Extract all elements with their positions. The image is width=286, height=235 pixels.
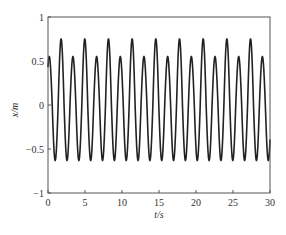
series-line bbox=[48, 39, 270, 160]
x-tick-label: 0 bbox=[46, 197, 51, 208]
y-tick-label: 0.5 bbox=[32, 56, 45, 67]
x-tick-label: 30 bbox=[265, 197, 275, 208]
y-tick-labels: −1−0.500.51 bbox=[26, 12, 44, 199]
y-axis-label: x/m bbox=[9, 103, 20, 118]
y-tick-label: 0 bbox=[39, 100, 44, 111]
y-tick-label: −1 bbox=[33, 188, 44, 199]
x-tick-label: 5 bbox=[83, 197, 88, 208]
x-tick-label: 20 bbox=[191, 197, 201, 208]
x-tick-label: 10 bbox=[117, 197, 127, 208]
x-tick-label: 25 bbox=[228, 197, 238, 208]
x-tick-label: 15 bbox=[154, 197, 164, 208]
x-axis-label: t/s bbox=[154, 209, 164, 220]
y-tick-label: −0.5 bbox=[26, 144, 44, 155]
line-chart: 051015202530 −1−0.500.51 t/s x/m bbox=[0, 0, 286, 235]
x-tick-labels: 051015202530 bbox=[46, 197, 276, 208]
y-tick-label: 1 bbox=[39, 12, 44, 23]
